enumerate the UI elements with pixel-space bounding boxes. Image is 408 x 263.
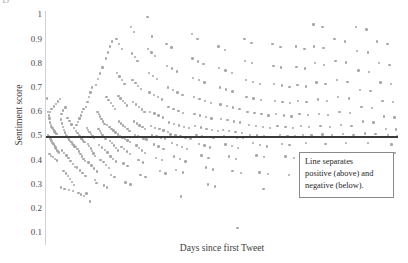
scatter-point	[85, 192, 87, 194]
scatter-point	[107, 99, 109, 101]
scatter-point	[129, 153, 131, 155]
scatter-point	[52, 128, 54, 130]
scatter-point	[198, 143, 200, 145]
scatter-point	[62, 170, 64, 172]
scatter-point	[53, 130, 55, 132]
scatter-point	[83, 195, 85, 197]
scatter-point	[114, 131, 116, 133]
scatter-point	[317, 98, 319, 100]
scatter-point	[235, 158, 237, 160]
scatter-point	[296, 84, 298, 86]
scatter-point	[385, 128, 387, 130]
scatter-point	[91, 86, 93, 88]
scatter-point	[167, 131, 169, 133]
scatter-point	[349, 112, 351, 114]
scatter-point	[55, 103, 57, 105]
scatter-point	[119, 97, 121, 99]
scatter-point	[105, 57, 107, 59]
scatter-point	[62, 126, 64, 128]
scatter-point	[111, 40, 113, 42]
scatter-point	[245, 79, 247, 81]
scatter-point	[88, 96, 90, 98]
scatter-point	[50, 108, 52, 110]
scatter-point	[281, 143, 283, 145]
scatter-point	[96, 111, 98, 113]
scatter-point	[71, 181, 73, 183]
scatter-point	[69, 178, 71, 180]
scatter-point	[81, 155, 83, 157]
scatter-point	[49, 121, 51, 123]
scatter-point	[182, 112, 184, 114]
y-tick-label: 0.2	[20, 204, 42, 213]
scatter-point	[210, 117, 212, 119]
scatter-point	[186, 148, 188, 150]
scatter-point	[100, 132, 102, 134]
scatter-point	[98, 144, 100, 146]
scatter-point	[228, 155, 230, 157]
scatter-point	[193, 113, 195, 115]
y-tick-label: 0.3	[20, 180, 42, 189]
scatter-point	[148, 91, 150, 93]
scatter-point	[70, 123, 72, 125]
scatter-point	[288, 174, 290, 176]
scatter-point	[54, 158, 56, 160]
scatter-point	[82, 108, 84, 110]
scatter-point	[284, 155, 286, 157]
scatter-point	[135, 103, 137, 105]
scatter-point	[122, 124, 124, 126]
y-tick-label: 0.1	[20, 228, 42, 237]
scatter-point	[61, 122, 63, 124]
scatter-point	[126, 139, 128, 141]
scatter-point	[126, 150, 128, 152]
scatter-point	[75, 124, 77, 126]
sentiment-separator-line	[46, 136, 398, 138]
scatter-point	[383, 115, 385, 117]
scatter-point	[191, 33, 193, 35]
scatter-point	[346, 81, 348, 83]
scatter-point	[393, 116, 395, 118]
scatter-point	[274, 100, 276, 102]
scatter-point	[154, 127, 156, 129]
scatter-point	[85, 106, 87, 108]
scatter-point	[159, 170, 161, 172]
scatter-point	[392, 101, 394, 103]
scatter-point	[56, 159, 58, 161]
scatter-point	[231, 170, 233, 172]
scatter-point	[105, 96, 107, 98]
scatter-point	[63, 188, 65, 190]
scatter-point	[164, 172, 166, 174]
scatter-point	[181, 94, 183, 96]
scatter-point	[165, 43, 167, 45]
scatter-point	[99, 115, 101, 117]
scatter-point	[217, 130, 219, 132]
scatter-point	[259, 83, 261, 85]
scatter-point	[76, 166, 78, 168]
scatter-point	[63, 152, 65, 154]
scatter-point	[76, 132, 78, 134]
scatter-point	[239, 121, 241, 123]
scatter-point	[144, 176, 146, 178]
scatter-point	[51, 127, 53, 129]
scatter-point	[258, 171, 260, 173]
scatter-point	[290, 115, 292, 117]
scatter-point	[50, 124, 52, 126]
scatter-point	[56, 150, 58, 152]
scatter-point	[245, 96, 247, 98]
scatter-point	[390, 143, 392, 145]
scatter-point	[141, 149, 143, 151]
scatter-point	[126, 104, 128, 106]
scatter-point	[272, 65, 274, 67]
scatter-point	[52, 156, 54, 158]
scatter-point	[252, 97, 254, 99]
scatter-point	[93, 167, 95, 169]
scatter-point	[118, 75, 120, 77]
scatter-point	[86, 127, 88, 129]
scatter-point	[51, 140, 53, 142]
scatter-point	[365, 28, 367, 30]
scatter-point	[113, 176, 115, 178]
scatter-point	[118, 120, 120, 122]
scatter-point	[120, 122, 122, 124]
scatter-point	[200, 126, 202, 128]
scatter-point	[99, 72, 101, 74]
scatter-point	[110, 102, 112, 104]
